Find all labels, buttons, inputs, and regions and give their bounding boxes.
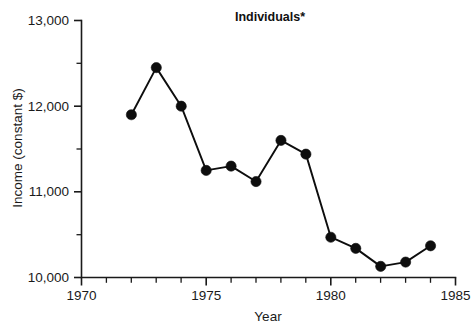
data-point-1981 <box>351 243 361 253</box>
data-point-1976 <box>226 161 236 171</box>
y-tick-label-13000: 13,000 <box>28 13 69 28</box>
y-tick-label-10000: 10,000 <box>28 270 69 285</box>
data-point-1984 <box>425 241 435 251</box>
y-axis-title: Income (constant $) <box>10 88 25 207</box>
data-point-1983 <box>401 257 411 267</box>
y-tick-label-11000: 11,000 <box>29 184 69 199</box>
line-chart-canvas: Individuals* 13,000 12,000 11,000 10,000 <box>0 0 475 327</box>
data-point-1979 <box>301 149 311 159</box>
data-point-1978 <box>276 135 286 145</box>
x-tick-label-1985: 1985 <box>440 288 470 303</box>
data-point-1982 <box>376 261 386 271</box>
x-tick-label-1980: 1980 <box>316 288 346 303</box>
data-point-1977 <box>251 176 261 186</box>
chart-title: Individuals* <box>235 10 305 24</box>
data-point-1980 <box>326 232 336 242</box>
data-point-1972 <box>126 110 136 120</box>
data-point-1973 <box>151 63 161 73</box>
data-point-1974 <box>176 101 186 111</box>
data-point-1975 <box>201 165 211 175</box>
x-tick-label-1975: 1975 <box>191 288 221 303</box>
x-axis-title: Year <box>254 309 282 324</box>
x-tick-label-1970: 1970 <box>66 288 96 303</box>
y-tick-label-12000: 12,000 <box>28 99 69 114</box>
chart-figure: Individuals* 13,000 12,000 11,000 10,000 <box>0 0 475 327</box>
